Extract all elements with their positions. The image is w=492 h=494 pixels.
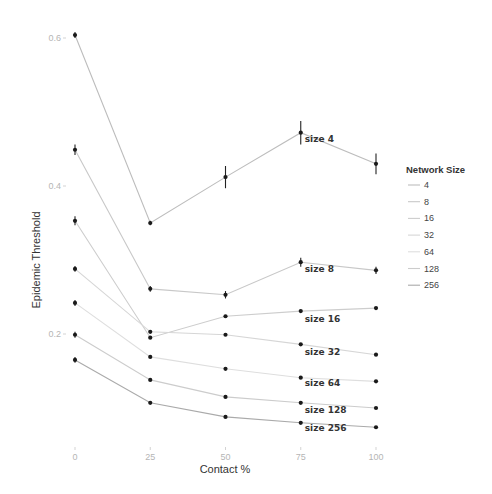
series-label: size 32: [305, 347, 340, 357]
series-16: size 16: [73, 216, 378, 339]
data-point: [374, 306, 378, 310]
legend-item-64: 64: [408, 247, 434, 257]
data-point: [374, 425, 378, 429]
x-tick-label: 75: [296, 452, 306, 462]
data-point: [374, 379, 378, 383]
data-point: [73, 33, 77, 37]
legend-label: 128: [424, 264, 439, 274]
series-label: size 4: [305, 134, 334, 144]
y-tick-label: 0.2: [48, 329, 61, 339]
data-point: [73, 333, 77, 337]
data-point: [73, 219, 77, 223]
series-line: [75, 269, 376, 355]
data-point: [148, 336, 152, 340]
data-point: [148, 401, 152, 405]
legend-label: 32: [424, 230, 434, 240]
y-axis: 0.20.40.6: [48, 33, 66, 339]
data-point: [299, 309, 303, 313]
series-32: size 32: [73, 266, 378, 357]
data-point: [374, 268, 378, 272]
x-axis: 0255075100: [72, 447, 383, 462]
y-tick-label: 0.6: [48, 33, 61, 43]
legend-label: 64: [424, 247, 434, 257]
legend-title: Network Size: [406, 164, 465, 175]
legend-label: 256: [424, 280, 439, 290]
legend-item-16: 16: [408, 213, 434, 223]
legend-label: 8: [424, 197, 429, 207]
series-label: size 64: [305, 378, 340, 388]
data-point: [148, 287, 152, 291]
legend-item-32: 32: [408, 230, 434, 240]
data-point: [223, 367, 227, 371]
y-tick-label: 0.4: [48, 181, 61, 191]
legend-label: 16: [424, 213, 434, 223]
data-point: [299, 342, 303, 346]
data-point: [299, 131, 303, 135]
series-label: size 16: [305, 314, 340, 324]
data-point: [299, 376, 303, 380]
legend: Network Size 48163264128256: [406, 164, 465, 290]
x-tick-label: 0: [72, 452, 77, 462]
data-point: [223, 415, 227, 419]
data-point: [374, 353, 378, 357]
data-point: [374, 406, 378, 410]
legend-item-4: 4: [408, 180, 429, 190]
data-point: [223, 333, 227, 337]
x-tick-label: 25: [145, 452, 155, 462]
x-tick-label: 50: [220, 452, 230, 462]
data-point: [148, 330, 152, 334]
data-point: [73, 267, 77, 271]
legend-item-256: 256: [408, 280, 439, 290]
data-point: [148, 221, 152, 225]
data-point: [223, 175, 227, 179]
data-point: [223, 395, 227, 399]
series-label: size 128: [305, 405, 347, 415]
x-axis-title: Contact %: [200, 463, 251, 475]
data-point: [73, 148, 77, 152]
data-point: [223, 293, 227, 297]
legend-item-128: 128: [408, 264, 439, 274]
data-point: [223, 314, 227, 318]
series-128: size 128: [73, 332, 378, 415]
data-point: [148, 378, 152, 382]
x-tick-label: 100: [368, 452, 383, 462]
series-4: size 4: [73, 32, 378, 225]
data-point: [148, 355, 152, 359]
line-chart: 0.20.40.6 0255075100 Epidemic Threshold …: [0, 0, 492, 494]
plot-area: size 4size 8size 16size 32size 64size 12…: [73, 32, 378, 433]
data-point: [374, 162, 378, 166]
series-label: size 256: [305, 423, 347, 433]
series-line: [75, 35, 376, 223]
data-point: [299, 421, 303, 425]
legend-item-8: 8: [408, 197, 429, 207]
data-point: [73, 358, 77, 362]
legend-label: 4: [424, 180, 429, 190]
data-point: [299, 401, 303, 405]
data-point: [73, 301, 77, 305]
series-label: size 8: [305, 264, 334, 274]
y-axis-title: Epidemic Threshold: [30, 211, 42, 308]
data-point: [299, 260, 303, 264]
